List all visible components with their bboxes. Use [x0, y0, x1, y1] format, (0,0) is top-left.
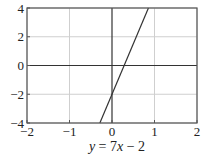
x-tick-labels: −2−1012: [20, 124, 200, 139]
x-tick-label: 0: [109, 124, 116, 139]
y-tick-label: 0: [18, 58, 25, 73]
y-tick-label: −4: [10, 116, 24, 131]
y-tick-label: 4: [18, 1, 25, 16]
chart-caption: y = 7x − 2: [87, 139, 145, 154]
x-tick-label: −1: [63, 124, 77, 139]
x-tick-label: 2: [194, 124, 201, 139]
chart: −2−1012 −4−2024 y = 7x − 2: [0, 0, 206, 156]
zero-axes: [27, 8, 197, 123]
y-tick-label: −2: [10, 87, 24, 102]
y-tick-labels: −4−2024: [10, 1, 24, 131]
y-tick-label: 2: [18, 29, 25, 44]
caption-rest: − 2: [123, 139, 145, 154]
x-tick-label: 1: [151, 124, 158, 139]
caption-eq: = 7: [95, 139, 117, 154]
